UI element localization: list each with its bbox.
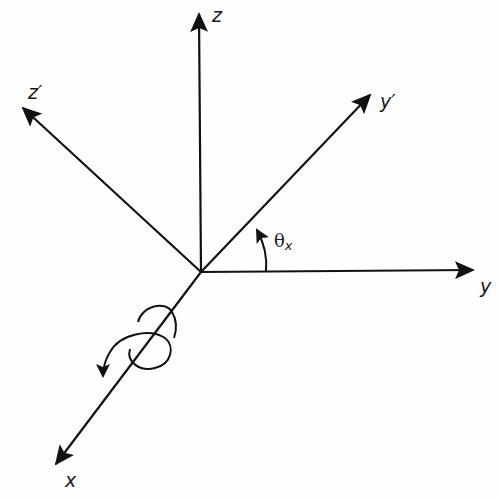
z-axis [199, 14, 201, 272]
z-prime-axis [23, 108, 201, 272]
z-prime-axis-label: z′ [28, 83, 42, 102]
theta-symbol: θ [274, 230, 285, 251]
y-axis [201, 270, 473, 272]
z-axis-label: z [212, 6, 222, 25]
y-axis-label: y [480, 277, 491, 296]
rotation-arc-lower [103, 333, 171, 376]
y-prime-axis-label: y′ [380, 92, 396, 111]
diagram-svg [0, 0, 500, 498]
theta-angle-arc [257, 230, 266, 272]
theta-subscript: x [285, 238, 293, 253]
theta-x-label: θx [274, 232, 293, 252]
x-axis-label: x [65, 471, 76, 490]
coordinate-rotation-diagram: z z′ y′ y x θx [0, 0, 500, 498]
x-axis [56, 272, 201, 464]
